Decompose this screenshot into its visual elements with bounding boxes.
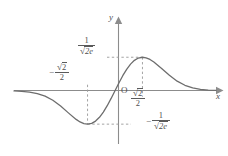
function-graph-figure: 1 √2e − √2 2 O √2	[0, 0, 228, 156]
fraction-one-over-root-2e: 1 √2e	[152, 111, 169, 131]
numerator: √2	[131, 88, 145, 98]
denominator: 2	[131, 98, 145, 108]
label-x-minimum: − √2 2	[49, 62, 69, 82]
numerator: 1	[152, 111, 169, 120]
radicand: 2e	[159, 121, 168, 131]
x-axis-label: x	[216, 92, 220, 101]
origin-label: O	[121, 86, 128, 95]
radical-2: √2	[57, 62, 67, 72]
radical-2e: √2e	[154, 121, 167, 131]
y-axis-label: y	[109, 13, 113, 22]
denominator: √2e	[152, 120, 169, 131]
radical-2e: √2e	[80, 46, 93, 56]
plot-canvas	[0, 0, 228, 156]
label-y-maximum: 1 √2e	[78, 36, 95, 56]
denominator: √2e	[78, 45, 95, 56]
numerator: √2	[55, 62, 69, 72]
denominator: 2	[55, 72, 69, 82]
radicand: 2e	[84, 46, 93, 56]
fraction-root2-over-2: √2 2	[55, 62, 69, 82]
radicand: 2	[62, 62, 67, 72]
radical-2: √2	[133, 88, 143, 98]
numerator: 1	[78, 36, 95, 45]
y-axis	[115, 17, 122, 145]
y-axis-arrow	[115, 17, 122, 25]
label-y-minimum: − 1 √2e	[146, 111, 170, 131]
fraction-root2-over-2: √2 2	[131, 88, 145, 108]
fraction-one-over-root-2e: 1 √2e	[78, 36, 95, 56]
label-x-maximum: √2 2	[131, 88, 145, 108]
radicand: 2	[137, 88, 142, 98]
